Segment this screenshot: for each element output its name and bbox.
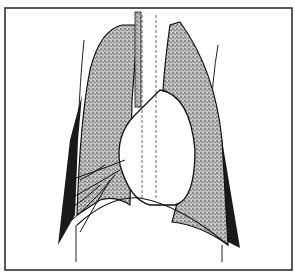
trachea xyxy=(135,12,141,107)
chest-anatomy-diagram xyxy=(0,0,295,272)
